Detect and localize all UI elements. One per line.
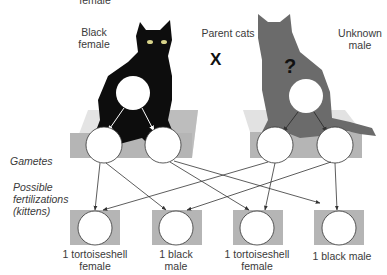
kitten-label-4: 1 black male	[304, 250, 380, 262]
female-parent-label: Black female	[72, 26, 116, 50]
fertilization-arrows	[95, 161, 337, 210]
cross-diagram	[0, 0, 387, 275]
female-genotype-circle	[116, 76, 150, 110]
fertilizations-row-label: Possible fertilizations (kittens)	[13, 181, 68, 217]
cross-symbol: X	[210, 50, 221, 70]
kitten-label-3: 1 tortoiseshell female	[217, 248, 297, 272]
cut-off-label: female	[75, 0, 115, 6]
unknown-question-icon: ?	[284, 55, 296, 78]
male-parent-label: Unknown male	[335, 27, 385, 51]
male-genotype-circle	[289, 79, 323, 113]
kitten-label-1: 1 tortoiseshell female	[55, 248, 135, 272]
parent-cats-title: Parent cats	[198, 27, 258, 39]
kitten-boxes	[70, 210, 364, 245]
kitten-label-2: 1 black male	[143, 248, 209, 272]
gametes-row-label: Gametes	[10, 155, 53, 167]
